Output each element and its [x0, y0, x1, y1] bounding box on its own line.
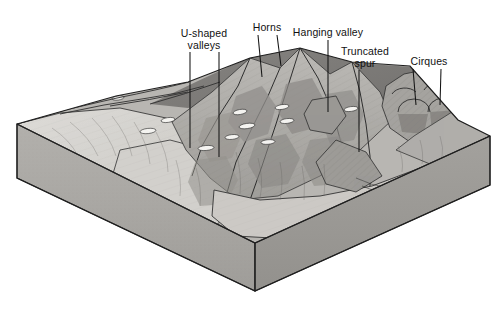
label-truncated-spur: Truncated spur — [341, 46, 389, 69]
label-horns: Horns — [253, 22, 282, 34]
label-cirques: Cirques — [411, 56, 448, 68]
label-u-shaped-valleys-line2: valleys — [181, 40, 227, 52]
label-u-shaped-valleys-line1: U-shaped — [181, 28, 227, 40]
label-truncated-spur-line2: spur — [341, 58, 389, 70]
figure-canvas: U-shaped valleys Horns Hanging valley Tr… — [0, 0, 499, 330]
block-diagram-illustration — [0, 0, 499, 330]
label-u-shaped-valleys: U-shaped valleys — [181, 28, 227, 51]
label-hanging-valley-line1: Hanging valley — [293, 27, 363, 39]
label-truncated-spur-line1: Truncated — [341, 46, 389, 58]
leader-line-cirques-2 — [440, 69, 441, 105]
label-hanging-valley: Hanging valley — [293, 27, 363, 39]
label-horns-line1: Horns — [253, 22, 282, 34]
terrain-top-surface — [17, 47, 490, 266]
label-cirques-line1: Cirques — [411, 56, 448, 68]
